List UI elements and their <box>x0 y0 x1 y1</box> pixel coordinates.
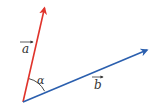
vector-b-label: b <box>94 78 102 92</box>
vector-diagram: a b α <box>0 0 156 112</box>
vector-a-label: a <box>22 42 29 56</box>
angle-label: α <box>37 74 45 87</box>
